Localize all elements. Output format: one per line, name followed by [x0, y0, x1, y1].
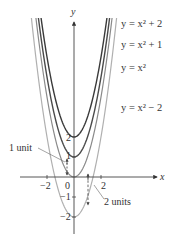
- annotation-2-units: 2 units: [104, 197, 131, 207]
- tick-y-neg2: −2: [60, 212, 71, 222]
- y-axis-label: y: [71, 7, 75, 17]
- parabola-shift-chart: [0, 0, 177, 238]
- label-curve-plus2: y = x² + 2: [121, 19, 162, 30]
- x-axis-label: x: [160, 172, 164, 182]
- label-curve-plus1: y = x² + 1: [121, 40, 162, 51]
- tick-y-neg1: −1: [60, 192, 71, 202]
- tick-y-2: 2: [66, 133, 71, 143]
- tick-y-1: 1: [66, 151, 71, 161]
- annotation-1-unit: 1 unit: [9, 143, 32, 153]
- tick-x-2: 2: [101, 181, 106, 191]
- tick-x-0: 0: [65, 181, 70, 191]
- label-curve-minus2: y = x² − 2: [121, 103, 162, 114]
- tick-x-neg2: −2: [40, 181, 51, 191]
- label-curve-base: y = x²: [121, 63, 146, 74]
